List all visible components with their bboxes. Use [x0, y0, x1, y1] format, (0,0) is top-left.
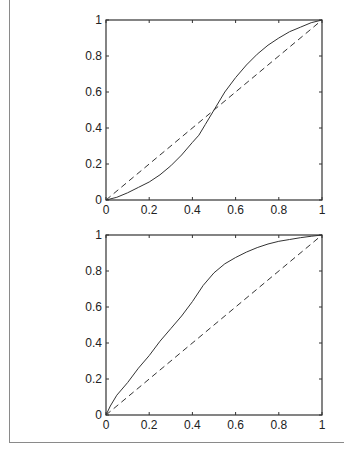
x-tick-label: 0	[103, 203, 110, 217]
x-tick-label: 0.2	[141, 418, 158, 432]
plot-1: 00.20.40.60.8100.20.40.60.81	[85, 13, 325, 217]
y-tick-label: 0.4	[85, 121, 102, 135]
x-tick-label: 0.4	[184, 418, 201, 432]
y-tick-label: 1	[95, 13, 102, 27]
x-tick-label: 0.6	[227, 418, 244, 432]
x-tick-label: 0.6	[227, 203, 244, 217]
y-tick-label: 1	[95, 228, 102, 242]
y-tick-label: 0	[95, 193, 102, 207]
y-tick-label: 0.8	[85, 264, 102, 278]
x-tick-label: 1	[319, 203, 326, 217]
y-tick-label: 0.2	[85, 157, 102, 171]
x-tick-label: 0.8	[270, 418, 287, 432]
figure-canvas: 00.20.40.60.8100.20.40.60.8100.20.40.60.…	[0, 0, 344, 451]
x-tick-label: 1	[319, 418, 326, 432]
series-diagonal-line	[106, 235, 322, 415]
series-diagonal-line	[106, 20, 322, 200]
y-tick-label: 0.6	[85, 300, 102, 314]
y-tick-label: 0.8	[85, 49, 102, 63]
x-tick-label: 0.8	[270, 203, 287, 217]
y-tick-label: 0.4	[85, 336, 102, 350]
y-tick-label: 0.2	[85, 372, 102, 386]
plot-2: 00.20.40.60.8100.20.40.60.81	[85, 228, 325, 432]
y-tick-label: 0.6	[85, 85, 102, 99]
x-tick-label: 0	[103, 418, 110, 432]
x-tick-label: 0.2	[141, 203, 158, 217]
y-tick-label: 0	[95, 408, 102, 422]
x-tick-label: 0.4	[184, 203, 201, 217]
